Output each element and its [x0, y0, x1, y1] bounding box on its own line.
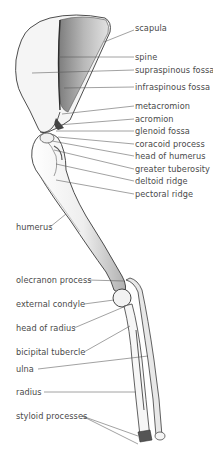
label-head-of-humerus: head of humerus [135, 151, 206, 161]
label-ulna: ulna [16, 364, 34, 374]
label-acromion: acromion [135, 114, 174, 124]
label-deltoid-ridge: deltoid ridge [135, 176, 188, 186]
label-styloid-processes: styloid processes [16, 411, 87, 421]
label-supraspinous-fossa: supraspinous fossa [135, 65, 213, 75]
label-infraspinous-fossa: infraspinous fossa [135, 82, 210, 92]
label-glenoid-fossa: glenoid fossa [135, 126, 190, 136]
label-metacromion: metacromion [135, 101, 190, 111]
scapula-bone [16, 15, 111, 133]
label-olecranon-process: olecranon process [16, 275, 92, 285]
label-radius: radius [16, 387, 42, 397]
label-greater-tuberosity: greater tuberosity [135, 164, 210, 174]
label-bicipital-tubercle: bicipital tubercle [16, 347, 85, 357]
label-head-of-radius: head of radius [16, 323, 76, 333]
label-coracoid-process: coracoid process [135, 139, 205, 149]
forearm-bones [113, 278, 165, 442]
label-spine: spine [135, 52, 157, 62]
anatomy-figure: scapula spine supraspinous fossa infrasp… [0, 0, 213, 449]
label-humerus: humerus [16, 222, 53, 232]
label-pectoral-ridge: pectoral ridge [135, 189, 193, 199]
label-scapula: scapula [135, 23, 167, 33]
label-external-condyle: external condyle [16, 299, 85, 309]
humerus-bone [32, 133, 126, 296]
